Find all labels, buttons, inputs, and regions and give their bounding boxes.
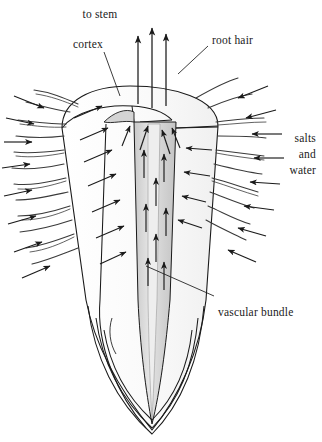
label-salts: salts	[295, 132, 317, 144]
root-cross-section-diagram: to stem cortex root hair salts and water…	[0, 0, 322, 442]
label-and: and	[299, 148, 316, 160]
label-water: water	[289, 164, 316, 176]
label-cortex: cortex	[73, 38, 103, 50]
label-root-hair: root hair	[212, 34, 253, 46]
label-to-stem: to stem	[83, 8, 118, 20]
leader-root-hair	[178, 46, 208, 74]
label-vascular-bundle: vascular bundle	[218, 306, 294, 318]
root-diagram-canvas: to stem cortex root hair salts and water…	[0, 0, 322, 442]
